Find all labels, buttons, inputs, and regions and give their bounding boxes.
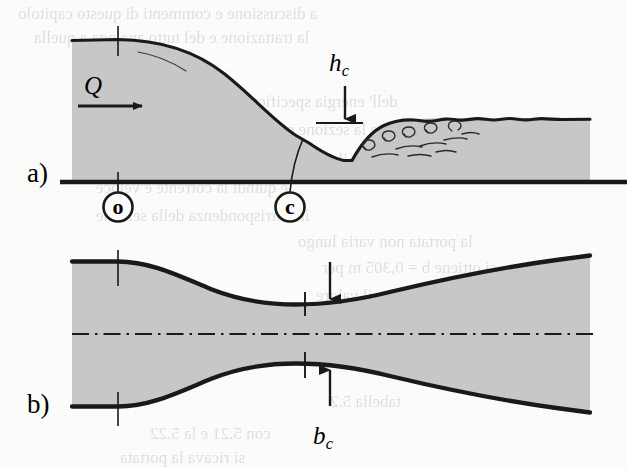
panel-a-tag: a) xyxy=(27,160,48,187)
critical-depth-label: hc xyxy=(329,50,349,80)
panel-b-plan-view xyxy=(72,250,598,426)
critical-width-label: bc xyxy=(313,423,333,453)
panel-b-tag: b) xyxy=(27,391,50,418)
discharge-label: Q xyxy=(84,73,102,98)
figure-root: a discussione e commenti di questo capit… xyxy=(0,0,627,468)
section-marker-o-label: o xyxy=(104,196,132,218)
channel-constriction-diagram xyxy=(0,0,627,468)
section-marker-c-label: c xyxy=(276,196,304,218)
